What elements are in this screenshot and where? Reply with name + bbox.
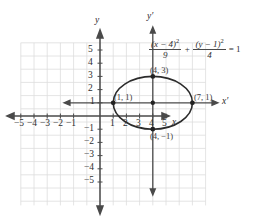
equation-fraction-x: (x − 4)2 9 bbox=[149, 37, 181, 61]
equation-denominator-y: 4 bbox=[205, 50, 214, 60]
ytick-label-3: 3 bbox=[88, 71, 93, 81]
equation-fraction-y: (y − 1)2 4 bbox=[193, 37, 225, 61]
ytick-label-4: 4 bbox=[88, 58, 93, 68]
xtick-label-5: 5 bbox=[162, 119, 167, 129]
equation-numerator-x: (x − 4)2 bbox=[149, 37, 181, 49]
xtick-label--1: −1 bbox=[66, 119, 76, 129]
y-prime-axis-label: y′ bbox=[147, 12, 153, 22]
point-label-4-3: (4, 3) bbox=[150, 66, 168, 75]
ellipse-equation: (x − 4)2 9 + (y − 1)2 4 = 1 bbox=[148, 37, 241, 61]
equation-exponent-y: 2 bbox=[220, 37, 223, 44]
ytick-label-5: 5 bbox=[88, 45, 93, 55]
ytick-label--4: −4 bbox=[84, 163, 94, 173]
y-axis-label: y bbox=[95, 16, 99, 26]
xtick-label-2: 2 bbox=[123, 119, 128, 129]
ytick-label--5: −5 bbox=[84, 176, 94, 186]
x-prime-axis-label: x′ bbox=[222, 97, 228, 107]
equation-right-hand-side: = 1 bbox=[229, 44, 241, 54]
point-label-7-1: (7, 1) bbox=[194, 93, 212, 102]
xtick-label-1: 1 bbox=[110, 119, 115, 129]
xtick-label--4: −4 bbox=[27, 119, 37, 129]
ytick-label--1: −1 bbox=[84, 124, 94, 134]
xtick-label--2: −2 bbox=[53, 119, 63, 129]
equation-denominator-x: 9 bbox=[161, 50, 170, 60]
ytick-label--2: −2 bbox=[84, 137, 94, 147]
xtick-label-3: 3 bbox=[136, 119, 141, 129]
coordinate-plane-svg bbox=[0, 0, 255, 220]
equation-plus-sign: + bbox=[185, 44, 190, 54]
ytick-label-1: 1 bbox=[90, 97, 95, 107]
xtick-label-4: 4 bbox=[149, 119, 154, 129]
point-label-4-neg1: (4, −1) bbox=[150, 132, 173, 141]
equation-numerator-y: (y − 1)2 bbox=[193, 37, 225, 49]
ytick-label-2: 2 bbox=[88, 84, 93, 94]
equation-exponent-x: 2 bbox=[176, 37, 179, 44]
point-label-1-1: (1, 1) bbox=[114, 93, 132, 102]
xtick-label--3: −3 bbox=[40, 119, 50, 129]
ytick-label--3: −3 bbox=[84, 150, 94, 160]
xtick-label--5: −5 bbox=[14, 119, 24, 129]
x-axis-label: x bbox=[172, 118, 176, 128]
ellipse-graph-figure: y y′ x x′ −5 −4 −3 −2 −1 1 2 3 4 5 5 4 3… bbox=[0, 0, 255, 220]
point-center bbox=[151, 101, 155, 105]
